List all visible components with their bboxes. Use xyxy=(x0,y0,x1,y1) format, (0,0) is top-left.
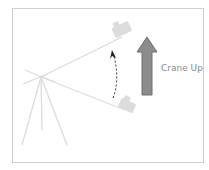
crane-arm-lower xyxy=(41,77,125,110)
crane-up-arrow-icon xyxy=(137,37,157,95)
camera-icon-top xyxy=(110,17,133,38)
crane-up-label: Crane Up xyxy=(161,63,203,73)
crane-diagram xyxy=(0,0,209,170)
dashed-motion-arrow xyxy=(110,50,117,98)
camera-icon-bottom xyxy=(118,94,138,113)
crane-arm-upper xyxy=(41,37,122,77)
tripod-icon xyxy=(22,70,67,145)
